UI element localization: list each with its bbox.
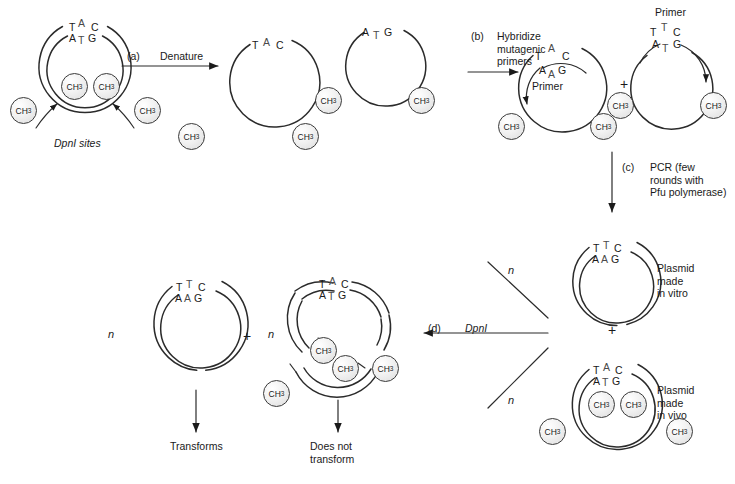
methyl-group-icon: CH3 [408, 87, 435, 114]
methyl-text: CH [504, 122, 516, 132]
digested-arc-left-inner [297, 301, 309, 348]
methyl-group-icon: CH3 [134, 97, 161, 124]
parental-bottom-base-1: T [78, 34, 84, 46]
methyl-sub: 3 [557, 428, 561, 435]
does-not-transform-label: Does not transform [310, 440, 354, 465]
methyl-group-icon: CH3 [292, 123, 319, 150]
methyl-text: CH [613, 101, 625, 111]
plus-sign-products: + [243, 328, 251, 344]
hybrid-right-template-base-1: T [662, 42, 668, 54]
methyl-group-icon: CH3 [315, 87, 342, 114]
step-c-label: PCR (few rounds with Pfu polymerase) [650, 161, 726, 199]
digested-top-base-1: A [329, 275, 336, 287]
methyl-text: CH [298, 132, 310, 142]
methyl-sub: 3 [516, 123, 520, 130]
invitro-bottom-base-1: A [601, 253, 608, 265]
methyl-text: CH [594, 400, 606, 410]
hybrid-right-template-base-0: A [652, 38, 659, 50]
parental-plasmid-outer-strand [39, 27, 131, 113]
methyl-group-icon: CH3 [263, 380, 290, 407]
dpn1-leader-left [36, 104, 57, 128]
methyl-group-icon: CH3 [588, 391, 615, 418]
methyl-sub: 3 [196, 133, 200, 140]
dpn1-branch-upper [488, 262, 548, 318]
dpn1-sites-label: DpnI sites [54, 137, 101, 150]
methyl-sub: 3 [111, 83, 115, 90]
hybrid-left-primer-base-2: G [558, 64, 566, 76]
dpn1-leader-right [113, 104, 134, 128]
methyl-sub: 3 [152, 107, 156, 114]
hybrid-right-primer-arc-right [681, 45, 706, 82]
n-multiplier-in-vitro: n [508, 264, 514, 276]
denatured-bottom-base-2: G [384, 26, 392, 38]
digested-arc-left-outer [287, 293, 302, 352]
hybrid-right-template-strand [631, 53, 713, 130]
hybrid-left-template-base-1: A [548, 42, 555, 54]
methyl-text: CH [316, 346, 328, 356]
digested-arc-right-inner [377, 319, 382, 345]
methyl-text: CH [321, 96, 333, 106]
digested-bottom-base-0: A [319, 289, 326, 301]
step-d-label: DpnI [465, 322, 487, 335]
methyl-group-icon: CH3 [700, 92, 727, 119]
step-b-tag: (b) [471, 30, 484, 43]
parental-bottom-base-2: G [88, 32, 96, 44]
methyl-group-icon: CH3 [539, 418, 566, 445]
methyl-sub: 3 [426, 97, 430, 104]
step-d-tag: (d) [428, 322, 441, 335]
methyl-text: CH [414, 96, 426, 106]
methyl-group-icon: CH3 [61, 73, 88, 100]
denatured-top-base-0: T [252, 39, 258, 51]
methyl-group-icon: CH3 [178, 123, 205, 150]
step-c-tag: (c) [622, 161, 634, 174]
plus-sign-hybrids: + [620, 76, 628, 92]
denatured-top-base-2: C [276, 39, 284, 51]
methyl-text: CH [545, 427, 557, 437]
methyl-sub: 3 [28, 107, 32, 114]
methyl-text: CH [596, 122, 608, 132]
hybrid-right-template-base-2: G [673, 38, 681, 50]
methyl-text: CH [672, 427, 684, 437]
methyl-text: CH [140, 106, 152, 116]
invivo-bottom-base-0: A [593, 375, 600, 387]
mutant-bottom-base-0: A [175, 292, 182, 304]
digested-bottom-base-1: T [328, 290, 334, 302]
plasmid-in-vitro-label: Plasmid made in vitro [657, 262, 694, 300]
denatured-strand-top-circle [230, 41, 320, 128]
hybrid-left-primer-base-0: A [539, 64, 546, 76]
methyl-sub: 3 [328, 347, 332, 354]
methyl-sub: 3 [310, 133, 314, 140]
methyl-group-icon: CH3 [620, 391, 647, 418]
methyl-tether-2 [358, 363, 365, 368]
hybrid-left-template-base-2: C [562, 50, 570, 62]
methyl-text: CH [269, 389, 281, 399]
methyl-sub: 3 [638, 401, 642, 408]
digested-stub-left [290, 364, 296, 372]
hybrid-left-template-base-0: T [535, 50, 541, 62]
mutant-bottom-base-1: A [184, 292, 191, 304]
methyl-sub: 3 [718, 102, 722, 109]
methyl-text: CH [67, 82, 79, 92]
hybrid-left-primer-base-1: A [548, 68, 555, 80]
methyl-text: CH [378, 364, 390, 374]
methyl-text: CH [706, 101, 718, 111]
n-multiplier-digested: n [268, 328, 274, 340]
methyl-sub: 3 [684, 428, 688, 435]
methyl-group-icon: CH3 [332, 355, 359, 382]
methyl-sub: 3 [608, 123, 612, 130]
denatured-bottom-base-1: T [373, 29, 379, 41]
transforms-label: Transforms [170, 440, 223, 453]
mutant-top-base-1: T [186, 278, 192, 290]
methyl-group-icon: CH3 [372, 355, 399, 382]
methyl-group-icon: CH3 [498, 113, 525, 140]
hybrid-right-primer-base-0: T [650, 26, 656, 38]
methyl-sub: 3 [79, 83, 83, 90]
invivo-bottom-base-1: T [602, 376, 608, 388]
methyl-group-icon: CH3 [310, 337, 337, 364]
methyl-sub: 3 [333, 97, 337, 104]
methyl-group-icon: CH3 [666, 418, 693, 445]
mutant-bottom-base-2: G [194, 292, 202, 304]
denatured-bottom-base-0: A [362, 26, 369, 38]
methyl-sub: 3 [606, 401, 610, 408]
invitro-bottom-base-2: G [611, 253, 619, 265]
